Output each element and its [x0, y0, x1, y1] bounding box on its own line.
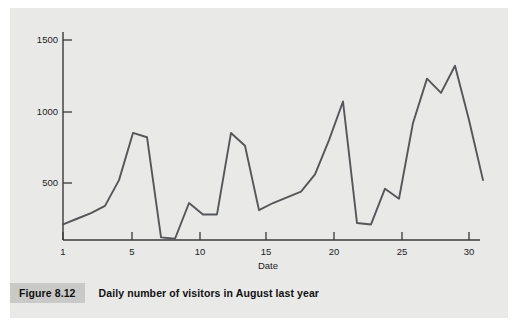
x-tick-label-20: 20 [329, 246, 340, 257]
x-axis-tick-labels: 1 5 10 15 20 25 30 [60, 246, 474, 257]
figure-page: 1500 1000 500 1 5 10 15 20 25 [0, 0, 519, 326]
x-tick-label-10: 10 [195, 246, 206, 257]
y-tick-label-1000: 1000 [37, 106, 58, 117]
chart-svg: 1500 1000 500 1 5 10 15 20 25 [10, 8, 508, 270]
x-axis-ticks [63, 232, 469, 240]
figure-caption-text: Daily number of visitors in August last … [99, 287, 319, 299]
y-tick-label-500: 500 [42, 177, 58, 188]
x-tick-label-15: 15 [261, 246, 272, 257]
y-tick-label-1500: 1500 [37, 34, 58, 45]
data-series-line [63, 66, 483, 239]
x-tick-label-1: 1 [60, 246, 65, 257]
x-tick-label-30: 30 [464, 246, 475, 257]
x-axis-title: Date [258, 260, 278, 270]
x-tick-label-5: 5 [129, 246, 134, 257]
x-tick-label-25: 25 [397, 246, 408, 257]
line-chart: 1500 1000 500 1 5 10 15 20 25 [10, 8, 508, 270]
y-axis-ticks [63, 40, 72, 183]
y-axis-tick-labels: 1500 1000 500 [37, 34, 58, 188]
figure-number-tag: Figure 8.12 [10, 283, 85, 303]
figure-caption: Figure 8.12 Daily number of visitors in … [10, 281, 508, 305]
